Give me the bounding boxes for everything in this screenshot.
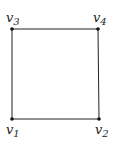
vertex-label-v3: v3 bbox=[6, 11, 20, 27]
vertex-v3-dot bbox=[10, 27, 14, 31]
square-edges bbox=[12, 29, 99, 119]
vertex-v4-dot bbox=[96, 27, 100, 31]
vertex-label-v1: v1 bbox=[6, 123, 20, 139]
vertex-v1-dot bbox=[10, 117, 14, 121]
vertex-label-v2: v2 bbox=[95, 123, 109, 139]
vertex-label-v4: v4 bbox=[93, 11, 107, 27]
vertex-v2-dot bbox=[97, 117, 101, 121]
